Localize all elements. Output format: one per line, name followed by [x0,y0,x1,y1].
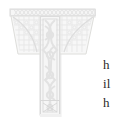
dropcap-base-shade [40,114,61,117]
page-canvas: h il h [0,0,118,124]
text-line: h [103,93,118,112]
text-line: il [103,74,118,93]
illuminated-dropcap-letter-t [0,0,100,124]
body-text-column: h il h [103,55,118,124]
text-line: h [103,55,118,74]
dropcap-svg [0,0,100,124]
